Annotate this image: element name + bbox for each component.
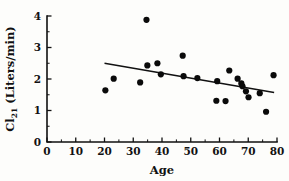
data-point — [111, 76, 117, 82]
data-point — [180, 73, 186, 79]
data-point — [144, 62, 150, 68]
x-tick-label: 0 — [43, 145, 50, 157]
axes-group — [47, 16, 277, 142]
data-point — [158, 71, 164, 77]
data-point — [243, 88, 249, 94]
x-axis-title: Age — [149, 163, 174, 177]
x-tick-label: 70 — [241, 145, 256, 157]
x-tick-label: 40 — [155, 145, 170, 157]
y-tick-label: 1 — [34, 104, 41, 116]
tick-labels-group: 0102030405060708001234 — [34, 10, 285, 157]
y-axis-title-text: Cl21 (Liters/min) — [3, 26, 19, 132]
data-points-group — [102, 17, 276, 115]
regression-line — [105, 63, 275, 92]
x-tick-label: 30 — [126, 145, 141, 157]
data-point — [102, 87, 108, 93]
data-point — [257, 90, 263, 96]
data-point — [270, 72, 276, 78]
data-point — [263, 109, 269, 115]
plot-canvas: 0102030405060708001234 Age Cl21 (Liters/… — [0, 0, 289, 181]
data-point — [180, 53, 186, 59]
data-point — [143, 17, 149, 23]
x-tick-label: 60 — [212, 145, 227, 157]
axis-spines — [47, 16, 277, 142]
data-point — [239, 83, 245, 89]
x-tick-label: 10 — [68, 145, 83, 157]
data-point — [226, 67, 232, 73]
y-tick-label: 2 — [34, 73, 41, 85]
x-tick-label: 50 — [183, 145, 198, 157]
data-point — [222, 98, 228, 104]
data-point — [245, 94, 251, 100]
y-axis-title: Cl21 (Liters/min) — [3, 26, 19, 132]
regression-line-segment — [105, 63, 275, 92]
y-axis-title-subscript: 21 — [10, 108, 19, 118]
scatter-plot-figure: 0102030405060708001234 Age Cl21 (Liters/… — [0, 0, 289, 181]
x-tick-label: 20 — [97, 145, 112, 157]
data-point — [214, 78, 220, 84]
y-tick-label: 0 — [34, 136, 41, 148]
ticks-group — [47, 16, 277, 142]
data-point — [154, 60, 160, 66]
data-point — [213, 98, 219, 104]
y-tick-label: 4 — [34, 10, 41, 22]
y-tick-label: 3 — [34, 41, 41, 53]
data-point — [194, 75, 200, 81]
x-tick-label: 80 — [270, 145, 285, 157]
y-axis-title-unit: (Liters/min) — [3, 26, 17, 108]
y-axis-title-main: Cl — [3, 118, 17, 132]
data-point — [137, 79, 143, 85]
